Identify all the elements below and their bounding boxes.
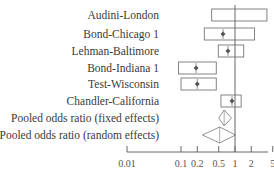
pooled-diamond: [202, 127, 235, 143]
pooled-label: Pooled odds ratio (random effects): [0, 129, 159, 142]
ci-box: [212, 9, 267, 21]
ci-box: [218, 45, 243, 57]
study-label: Bond-Chicago 1: [83, 28, 159, 41]
point-estimate-marker: [195, 82, 200, 87]
x-tick-label: 5: [270, 158, 274, 169]
pooled-diamond: [219, 110, 232, 126]
x-axis: 0.010.10.20.5125: [118, 146, 274, 169]
x-tick-label: 0.1: [175, 158, 188, 169]
study-label: Test-Wisconsin: [88, 78, 159, 90]
study-label: Audini-London: [87, 9, 159, 21]
point-estimate-marker: [221, 32, 226, 37]
pooled-label: Pooled odds ratio (fixed effects): [11, 112, 159, 125]
point-estimate-marker: [194, 66, 199, 71]
point-estimate-marker: [225, 49, 230, 54]
ci-box: [204, 28, 254, 40]
x-tick-label: 0.01: [118, 158, 136, 169]
x-tick-label: 0.2: [191, 158, 204, 169]
x-tick-label: 0.5: [212, 158, 225, 169]
study-labels: Audini-LondonBond-Chicago 1Lehman-Baltim…: [0, 9, 159, 142]
x-tick-label: 2: [249, 158, 254, 169]
x-tick-label: 1: [233, 158, 238, 169]
study-label: Bond-Indiana 1: [87, 62, 159, 74]
point-estimate-marker: [230, 99, 235, 104]
study-label: Chandler-California: [67, 95, 159, 107]
forest-plot: Audini-LondonBond-Chicago 1Lehman-Baltim…: [0, 0, 274, 174]
study-label: Lehman-Baltimore: [72, 45, 160, 57]
confidence-intervals: [179, 9, 267, 143]
